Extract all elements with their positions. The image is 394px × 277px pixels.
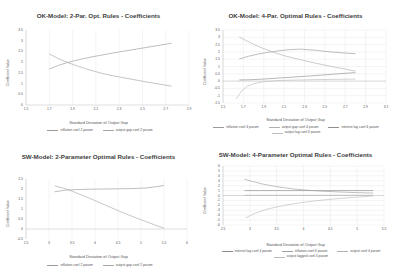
y-axis-tick: 2.5 bbox=[0, 177, 23, 181]
x-axis-tick: 2.1 bbox=[282, 105, 287, 109]
legend-item[interactable]: interest lag coef 4 param bbox=[328, 125, 378, 130]
y-axis-tick: 5 bbox=[197, 169, 220, 173]
y-axis-tick: -4 bbox=[197, 213, 220, 217]
x-axis-tick: 5.5 bbox=[382, 227, 387, 231]
plot-area-ok-4par: -1.5-1-0.500.511.522.533.51.51.71.92.12.… bbox=[197, 24, 394, 116]
legend-item[interactable]: output lagged coef 4 param bbox=[274, 254, 328, 259]
y-axis-tick: 0 bbox=[0, 227, 23, 231]
x-axis-tick: 3 bbox=[249, 227, 251, 231]
page-title: OK-Model: 4-Par. Optimal Rules - Coeffic… bbox=[197, 12, 394, 20]
legend-label: inflation coef 2 param bbox=[60, 263, 92, 268]
x-axis-tick: 1.7 bbox=[47, 107, 52, 111]
y-axis-tick: -1 bbox=[197, 94, 220, 98]
y-axis-tick: 0 bbox=[0, 103, 23, 107]
legend-item[interactable]: inflation coef 4 param bbox=[213, 125, 258, 130]
legend-label: output lag coef 4 param bbox=[285, 130, 321, 135]
x-axis-tick: 3.5 bbox=[274, 227, 279, 231]
series-line bbox=[244, 179, 373, 193]
legend-swatch-icon bbox=[47, 265, 58, 266]
plot-area-sw-4par: -6-5-4-3-2-101234562.533.544.555.5Coeffi… bbox=[197, 161, 394, 241]
x-axis-tick: 6 bbox=[186, 241, 188, 245]
legend-swatch-icon bbox=[337, 251, 348, 252]
x-axis-tick: 4 bbox=[303, 227, 305, 231]
series-line bbox=[239, 49, 355, 59]
page-title: OK-Model: 2-Par. Opt. Rules - Coefficien… bbox=[0, 12, 197, 20]
legend-item[interactable]: output gap coef 2 param bbox=[103, 128, 153, 133]
y-axis-tick: 1 bbox=[0, 82, 23, 86]
legend-label: output gap coef 2 param bbox=[116, 128, 153, 133]
y-axis-tick: -0.5 bbox=[0, 237, 23, 241]
y-axis-tick: 4 bbox=[197, 174, 220, 178]
y-axis-tick: 3 bbox=[0, 39, 23, 43]
chart-panel-sw-4par: SW-Model: 4-Parameter Optimal Rules - Co… bbox=[197, 139, 394, 277]
legend-swatch-icon bbox=[103, 130, 114, 131]
legend-swatch-icon bbox=[103, 265, 114, 266]
legend-label: inflation coef 4 param bbox=[226, 125, 258, 130]
x-axis-tick: 1.5 bbox=[24, 107, 29, 111]
legend-swatch-icon bbox=[269, 127, 280, 128]
legend-label: inflation coef 2 param bbox=[60, 128, 92, 133]
legend-item[interactable]: output gap coef 2 param bbox=[103, 263, 153, 268]
y-axis-tick: 6 bbox=[197, 164, 220, 168]
legend-item[interactable]: inflation coef 2 param bbox=[47, 263, 92, 268]
y-axis-label: Coefficient Value bbox=[203, 187, 207, 214]
legend-swatch-icon bbox=[274, 257, 285, 258]
y-axis-tick: -3 bbox=[197, 208, 220, 212]
x-axis-tick: 2.9 bbox=[187, 107, 192, 111]
y-axis-tick: 1.5 bbox=[0, 71, 23, 75]
legend-swatch-icon bbox=[328, 127, 339, 128]
y-axis-tick: -5 bbox=[197, 218, 220, 222]
y-axis-tick: 0 bbox=[197, 79, 220, 83]
y-axis-tick: -1 bbox=[197, 198, 220, 202]
y-axis-label: Coefficient Value bbox=[6, 59, 10, 86]
series-line bbox=[49, 54, 171, 86]
y-axis-tick: -1.5 bbox=[197, 101, 220, 105]
x-axis-label: Standard Deviation of Output Gap bbox=[0, 254, 197, 259]
x-axis-tick: 2.5 bbox=[323, 105, 328, 109]
legend-swatch-icon bbox=[282, 251, 293, 252]
x-axis-tick: 5 bbox=[356, 227, 358, 231]
y-axis-tick: 0.5 bbox=[0, 217, 23, 221]
legend-swatch-icon bbox=[213, 127, 224, 128]
x-axis-tick: 1.9 bbox=[261, 105, 266, 109]
y-axis-tick: 1.5 bbox=[0, 197, 23, 201]
x-axis-tick: 2.7 bbox=[163, 107, 168, 111]
legend-item[interactable]: output coef 4 param bbox=[337, 249, 380, 254]
legend-swatch-icon bbox=[222, 251, 233, 252]
legend-label: interest lag coef 4 param bbox=[235, 249, 272, 254]
page-title: SW-Model: 4-Parameter Optimal Rules - Co… bbox=[197, 151, 394, 159]
x-axis-tick: 3.1 bbox=[384, 105, 389, 109]
series-line bbox=[246, 196, 374, 218]
y-axis-label: Coefficient Value bbox=[6, 200, 10, 227]
chart-grid: OK-Model: 2-Par. Opt. Rules - Coefficien… bbox=[0, 0, 394, 277]
x-axis-tick: 4.5 bbox=[116, 241, 121, 245]
y-axis-tick: 3.5 bbox=[0, 28, 23, 32]
y-axis-tick: 0.5 bbox=[197, 72, 220, 76]
legend-item[interactable]: output lag coef 4 param bbox=[272, 130, 321, 135]
plot-area-ok-2par: 00.511.522.533.51.51.71.92.12.32.52.72.9… bbox=[0, 24, 197, 119]
plot-svg bbox=[0, 173, 197, 253]
x-axis-tick: 5.5 bbox=[162, 241, 167, 245]
legend-sw-2par: inflation coef 2 paramoutput gap coef 2 … bbox=[10, 263, 190, 268]
x-axis-label: Standard Deviation of Output Gap bbox=[197, 117, 394, 122]
series-line bbox=[55, 186, 164, 228]
series-line bbox=[236, 79, 355, 99]
x-axis-label: Standard Deviation of Output Gap bbox=[0, 120, 197, 125]
chart-panel-ok-2par: OK-Model: 2-Par. Opt. Rules - Coefficien… bbox=[0, 0, 197, 139]
y-axis-tick: 3 bbox=[197, 35, 220, 39]
legend-item[interactable]: interest lag coef 4 param bbox=[222, 249, 272, 254]
plot-area-sw-2par: -0.500.511.522.52.533.544.555.56Coeffici… bbox=[0, 173, 197, 253]
y-axis-tick: 3 bbox=[197, 179, 220, 183]
y-axis-tick: 2 bbox=[0, 187, 23, 191]
legend-label: output gap coef 2 param bbox=[116, 263, 153, 268]
plot-svg bbox=[0, 24, 197, 119]
x-axis-tick: 2.1 bbox=[93, 107, 98, 111]
x-axis-tick: 4.5 bbox=[328, 227, 333, 231]
y-axis-tick: 3.5 bbox=[197, 28, 220, 32]
x-axis-tick: 3.5 bbox=[70, 241, 75, 245]
y-axis-tick: 0 bbox=[197, 194, 220, 198]
legend-item[interactable]: inflation coef 2 param bbox=[47, 128, 92, 133]
x-axis-tick: 2.5 bbox=[24, 241, 29, 245]
y-axis-tick: 2 bbox=[197, 50, 220, 54]
legend-ok-4par: inflation coef 4 paramoutput gap coef 4 … bbox=[203, 125, 389, 136]
